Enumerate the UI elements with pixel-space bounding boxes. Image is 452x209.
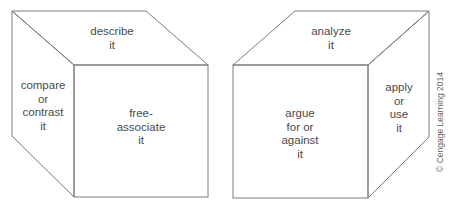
label-line: it [117, 134, 166, 148]
copyright-credit: © Cengage Learning 2014 [435, 72, 445, 172]
label-line: associate [117, 120, 166, 134]
label-line: contrast [21, 106, 66, 120]
right-cube-top-label: analyze it [311, 25, 351, 52]
label-line: describe [90, 25, 133, 39]
right-cube-right-label: apply or use it [385, 81, 413, 135]
label-line: against [281, 134, 318, 148]
left-cube-front-label: free- associate it [117, 107, 166, 148]
label-line: it [311, 38, 351, 52]
right-cube-front-label: argue for or against it [281, 107, 318, 161]
label-line: free- [117, 107, 166, 121]
label-line: it [21, 120, 66, 134]
label-line: or [21, 93, 66, 107]
label-line: compare [21, 79, 66, 93]
label-line: it [90, 38, 133, 52]
label-line: apply [385, 81, 413, 95]
label-line: argue [281, 107, 318, 121]
label-line: it [385, 122, 413, 136]
label-line: use [385, 108, 413, 122]
left-cube-top-label: describe it [90, 25, 133, 52]
left-cube-left-label: compare or contrast it [21, 79, 66, 133]
label-line: it [281, 148, 318, 162]
label-line: or [385, 95, 413, 109]
cubes-drawing [0, 0, 452, 209]
label-line: analyze [311, 25, 351, 39]
label-line: for or [281, 121, 318, 135]
